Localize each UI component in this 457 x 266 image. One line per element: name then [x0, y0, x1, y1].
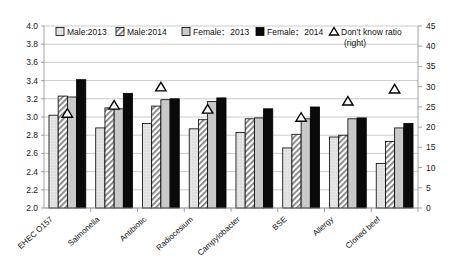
- bar: [339, 135, 348, 208]
- legend-label-secondary: (right): [344, 38, 366, 48]
- x-axis-ticks: [91, 208, 418, 212]
- bar: [357, 118, 366, 208]
- y-axis-right-tick-label: 35: [426, 61, 436, 71]
- bar: [208, 102, 217, 208]
- y-axis-left-labels: 2.02.22.42.62.83.03.23.43.63.84.0: [26, 21, 38, 213]
- legend-swatch: [256, 28, 264, 36]
- bar: [105, 108, 114, 208]
- y-axis-right-tick-label: 10: [426, 163, 436, 173]
- bar: [123, 93, 132, 208]
- legend-label: Male:2013: [67, 27, 107, 37]
- bar: [310, 107, 319, 208]
- y-axis-left-tick-label: 3.6: [26, 57, 38, 67]
- legend-label: Female：2013: [193, 27, 250, 37]
- chart-container: 2.02.22.42.62.83.03.23.43.63.84.0 051015…: [0, 0, 457, 266]
- bar: [404, 123, 413, 208]
- bar: [385, 142, 394, 208]
- y-axis-left-tick-label: 3.8: [26, 39, 38, 49]
- y-axis-left-tick-label: 2.8: [26, 130, 38, 140]
- x-axis-category-label: Campylobacter: [196, 215, 242, 258]
- bar: [96, 128, 105, 208]
- bar: [77, 80, 86, 208]
- y-axis-right-tick-label: 15: [426, 142, 436, 152]
- bar: [283, 148, 292, 208]
- y-axis-left-tick-label: 3.4: [26, 76, 38, 86]
- y-axis-right-tick-label: 30: [426, 82, 436, 92]
- x-axis-category-labels: EHEC O157SalmonellaAntibioticRadiocesium…: [16, 214, 383, 257]
- x-axis-category-label: BSE: [271, 215, 289, 232]
- bar: [264, 109, 273, 208]
- bar: [161, 100, 170, 208]
- y-axis-right-ticks: [418, 26, 422, 208]
- x-axis-category-label: EHEC O157: [16, 214, 55, 251]
- bar: [142, 123, 151, 208]
- y-axis-left-tick-label: 2.6: [26, 148, 38, 158]
- bar: [376, 163, 385, 208]
- bar: [152, 106, 161, 208]
- bar: [348, 119, 357, 208]
- bar: [198, 120, 207, 208]
- bar: [49, 115, 58, 208]
- legend-label: Male:2014: [127, 27, 167, 37]
- bar: [301, 119, 310, 208]
- bar: [254, 118, 263, 208]
- y-axis-right-tick-label: 0: [426, 203, 431, 213]
- legend-label: Don't know ratio: [341, 27, 402, 37]
- bar: [189, 129, 198, 208]
- y-axis-right-labels: 051015202530354045: [426, 21, 436, 213]
- y-axis-left-tick-label: 3.0: [26, 112, 38, 122]
- legend-swatch: [182, 28, 190, 36]
- x-axis-category-label: Cloned beef: [344, 214, 383, 250]
- y-axis-right-tick-label: 5: [426, 183, 431, 193]
- y-axis-right-tick-label: 25: [426, 102, 436, 112]
- bar: [395, 128, 404, 208]
- bar: [114, 109, 123, 208]
- bar: [329, 137, 338, 208]
- x-axis-category-label: Allergy: [311, 215, 335, 238]
- legend-label: Female：2014: [267, 27, 324, 37]
- y-axis-left-tick-label: 2.4: [26, 167, 38, 177]
- x-axis-category-label: Antibiotic: [118, 215, 148, 243]
- y-axis-left-tick-label: 2.2: [26, 185, 38, 195]
- y-axis-right-tick-label: 40: [426, 41, 436, 51]
- y-axis-left-tick-label: 4.0: [26, 21, 38, 31]
- bar: [292, 134, 301, 208]
- bar-chart: 2.02.22.42.62.83.03.23.43.63.84.0 051015…: [0, 0, 457, 266]
- bar: [217, 98, 226, 208]
- bar: [245, 119, 254, 208]
- bar: [170, 99, 179, 208]
- legend-swatch: [116, 28, 124, 36]
- bar: [236, 132, 245, 208]
- x-axis-category-label: Radiocesium: [155, 215, 196, 253]
- y-axis-right-tick-label: 20: [426, 122, 436, 132]
- x-axis-category-label: Salmonella: [66, 214, 102, 248]
- legend-swatch: [56, 28, 64, 36]
- y-axis-right-tick-label: 45: [426, 21, 436, 31]
- y-axis-left-tick-label: 3.2: [26, 94, 38, 104]
- y-axis-left-tick-label: 2.0: [26, 203, 38, 213]
